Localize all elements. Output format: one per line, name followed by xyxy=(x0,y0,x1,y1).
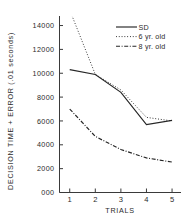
y-tick-label: 8000 xyxy=(37,93,55,102)
y-tick-label: 2000 xyxy=(37,164,55,173)
x-tick-label: 3 xyxy=(119,195,123,204)
legend-label-2: 6 yr. old xyxy=(139,32,166,41)
legend-label-3: 8 yr. old xyxy=(139,42,166,51)
y-tick-label: 12000 xyxy=(33,45,55,54)
chart-legend: SD6 yr. old8 yr. old xyxy=(116,23,165,51)
y-tick-label: 4000 xyxy=(37,140,55,149)
x-tick-label: 2 xyxy=(93,195,97,204)
line-chart: 0002000400060008000100001200014000 12345… xyxy=(0,0,184,222)
series-line-8-yr-old xyxy=(70,109,172,162)
y-tick-label: 000 xyxy=(41,188,54,197)
x-tick-label: 5 xyxy=(170,195,174,204)
x-axis-title: TRIALS xyxy=(105,206,134,215)
y-tick-label: 14000 xyxy=(33,21,55,30)
y-axis-title: DECISION TIME + ERROR (.01 seconds) xyxy=(6,32,15,190)
series-line-sd xyxy=(70,70,172,125)
x-axis-ticks: 12345 xyxy=(68,189,175,204)
y-tick-label: 6000 xyxy=(37,117,55,126)
chart-figure: 0002000400060008000100001200014000 12345… xyxy=(0,0,184,222)
y-tick-label: 10000 xyxy=(33,69,55,78)
x-tick-label: 4 xyxy=(144,195,148,204)
y-axis-ticks: 0002000400060008000100001200014000 xyxy=(33,21,64,197)
x-tick-label: 1 xyxy=(68,195,72,204)
legend-label-1: SD xyxy=(139,23,149,32)
